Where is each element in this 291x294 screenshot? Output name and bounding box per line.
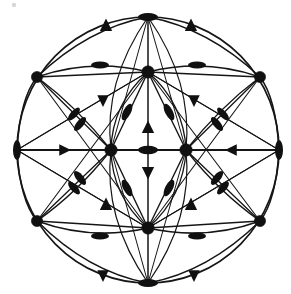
marker-rim-bottom xyxy=(138,279,158,287)
vertex-hub-bottom xyxy=(142,222,154,234)
marker-rim-right xyxy=(275,140,283,160)
vertex-corner-top-left xyxy=(31,71,42,82)
marker-low-left xyxy=(91,232,109,239)
marker-center xyxy=(138,146,158,154)
vertex-corner-bottom-left xyxy=(31,215,42,226)
marker-low-right xyxy=(188,232,206,239)
graph-diagram xyxy=(0,0,291,294)
marker-up-left xyxy=(91,61,109,68)
vertex-corner-bottom-right xyxy=(254,215,265,226)
vertex-hub-left xyxy=(105,144,117,156)
scan-speck xyxy=(12,3,16,7)
vertex-hub-top xyxy=(142,66,154,78)
figure-root xyxy=(0,0,291,294)
marker-rim-left xyxy=(13,140,21,160)
marker-rim-top xyxy=(138,13,158,21)
vertex-hub-right xyxy=(180,144,192,156)
marker-up-right xyxy=(188,61,206,68)
vertex-corner-top-right xyxy=(254,71,265,82)
